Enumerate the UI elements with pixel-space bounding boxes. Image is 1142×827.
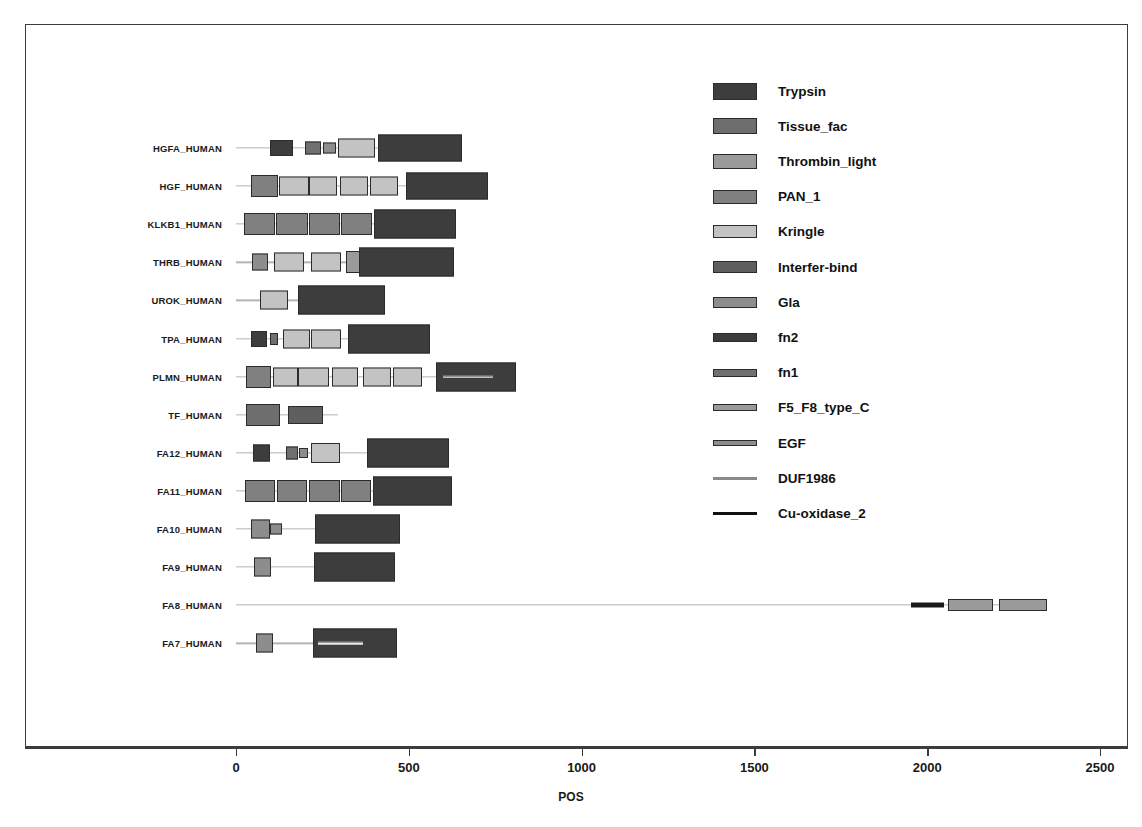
legend-item[interactable]: Trypsin [713,80,826,102]
domain-fn2[interactable] [270,140,293,156]
domain-pan-1[interactable] [341,213,372,235]
domain-pan-1[interactable] [309,480,339,502]
domain-gla[interactable] [252,254,268,271]
protein-label: FA12_HUMAN [157,447,222,458]
legend-item[interactable]: DUF1986 [713,467,836,489]
legend-swatch-icon [713,404,757,411]
domain-cu-oxidase-2[interactable] [911,603,945,608]
legend-label: DUF1986 [778,471,836,486]
domain-pan-1[interactable] [341,480,371,502]
domain-pan-1[interactable] [309,213,340,235]
domain-egf[interactable] [323,143,335,154]
domain-kringle[interactable] [311,443,340,463]
protein-label: FA7_HUMAN [162,638,222,649]
domain-duf1986[interactable] [443,375,493,378]
domain-trypsin[interactable] [374,210,457,239]
domain-trypsin[interactable] [373,476,452,505]
domain-pan-1[interactable] [251,175,279,197]
domain-kringle[interactable] [283,329,311,348]
legend-label: Cu-oxidase_2 [778,506,866,521]
legend-item[interactable]: Kringle [713,221,825,243]
protein-label: PLMN_HUMAN [152,371,222,382]
protein-label: FA11_HUMAN [157,485,222,496]
domain-kringle[interactable] [332,367,358,386]
legend-label: fn1 [778,365,798,380]
legend-item[interactable]: Thrombin_light [713,150,876,172]
legend-item[interactable]: fn2 [713,326,798,348]
legend-item[interactable]: Cu-oxidase_2 [713,502,866,524]
legend-swatch-icon [713,154,757,169]
legend-item[interactable]: Gla [713,291,800,313]
legend-swatch-icon [713,190,757,204]
domain-gla[interactable] [254,558,271,577]
domain-fn1[interactable] [286,446,297,459]
domain-kringle[interactable] [311,329,341,348]
domain-pan-1[interactable] [277,480,307,502]
legend-label: EGF [778,436,806,451]
domain-kringle[interactable] [274,253,304,272]
domain-egf[interactable] [299,448,308,458]
legend-item[interactable]: EGF [713,432,806,454]
domain-kringle[interactable] [273,367,298,386]
x-axis-tick-label: 2500 [1086,760,1115,775]
domain-pan-1[interactable] [276,213,308,235]
legend-swatch-icon [713,440,757,446]
domain-kringle[interactable] [393,367,422,386]
domain-kringle[interactable] [363,367,391,386]
domain-f5-f8-type-c[interactable] [948,599,993,611]
domain-kringle[interactable] [338,139,375,158]
domain-interfer-bind[interactable] [288,406,323,424]
domain-trypsin[interactable] [315,515,400,544]
domain-pan-1[interactable] [244,213,275,235]
protein-label: THRB_HUMAN [153,257,222,268]
domain-kringle[interactable] [309,177,337,196]
domain-trypsin[interactable] [406,173,488,200]
legend-swatch-icon [713,369,757,377]
legend-label: Thrombin_light [778,154,876,169]
legend-label: F5_F8_type_C [778,400,870,415]
domain-trypsin[interactable] [359,248,454,277]
domain-kringle[interactable] [279,177,309,196]
domain-kringle[interactable] [311,253,340,272]
domain-trypsin[interactable] [378,135,462,162]
legend-item[interactable]: PAN_1 [713,186,821,208]
domain-pan-1[interactable] [245,480,275,502]
legend-swatch-icon [713,333,757,342]
domain-fn2[interactable] [251,331,267,347]
x-axis-tick-label: 1000 [567,760,596,775]
legend-label: Kringle [778,224,825,239]
domain-trypsin[interactable] [367,438,449,467]
domain-tissue-fac[interactable] [246,404,281,426]
domain-egf[interactable] [270,524,282,535]
protein-label: TPA_HUMAN [161,333,222,344]
protein-label: HGFA_HUMAN [153,143,222,154]
domain-gla[interactable] [256,634,273,653]
domain-trypsin[interactable] [314,553,396,582]
x-axis-label: POS [0,790,1142,804]
domain-kringle[interactable] [340,177,369,196]
domain-gla[interactable] [251,520,270,539]
domain-duf1986[interactable] [318,642,363,645]
x-axis-tick [754,747,755,756]
legend-item[interactable]: Interfer-bind [713,256,858,278]
legend-swatch-icon [713,225,757,238]
domain-fn2[interactable] [253,444,270,461]
domain-kringle[interactable] [260,291,288,310]
x-axis-tick [582,747,583,756]
domain-trypsin[interactable] [348,324,430,353]
legend-label: PAN_1 [778,189,821,204]
domain-fn1[interactable] [305,142,321,155]
domain-kringle[interactable] [298,367,328,386]
legend-item[interactable]: fn1 [713,362,798,384]
domain-fn1[interactable] [270,333,278,345]
x-axis-tick-label: 2000 [913,760,942,775]
domain-kringle[interactable] [370,177,399,196]
protein-label: HGF_HUMAN [160,181,223,192]
legend-item[interactable]: F5_F8_type_C [713,397,870,419]
domain-trypsin[interactable] [298,286,385,315]
x-axis-tick [1100,747,1101,756]
domain-pan-1[interactable] [246,366,272,388]
legend-item[interactable]: Tissue_fac [713,115,848,137]
domain-f5-f8-type-c[interactable] [999,599,1047,611]
x-axis-tick-label: 1500 [740,760,769,775]
